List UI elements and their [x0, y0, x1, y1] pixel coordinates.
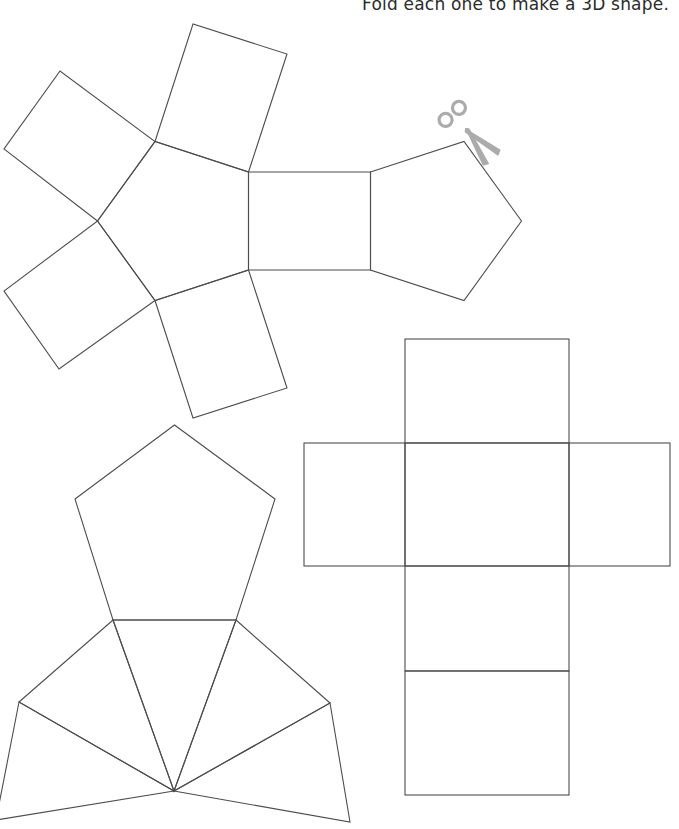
left-face	[304, 443, 405, 566]
worksheet-canvas	[0, 0, 679, 829]
right-face	[569, 443, 670, 566]
triangle-center	[113, 620, 236, 791]
pentagonal-pyramid-net	[0, 425, 350, 822]
bottom-square	[155, 270, 287, 418]
right-square	[249, 172, 371, 270]
center-pentagon	[98, 142, 249, 301]
right-pentagon	[371, 142, 522, 301]
scissors-icon	[436, 99, 505, 171]
triangle-far-right	[174, 703, 350, 822]
top-left-square	[4, 71, 155, 221]
bottom-face	[405, 671, 569, 795]
triangle-far-left	[0, 702, 174, 820]
top-face	[405, 339, 569, 443]
middle-face	[405, 443, 569, 566]
pentagonal-prism-net	[4, 24, 522, 418]
triangle-left	[19, 620, 174, 791]
worksheet-page: Fold each one to make a 3D shape.	[0, 0, 679, 829]
lower-face	[405, 566, 569, 671]
triangle-right	[174, 620, 330, 791]
bottom-left-square	[4, 221, 155, 369]
top-right-square	[155, 24, 287, 172]
base-pentagon	[75, 425, 275, 620]
cuboid-net	[304, 339, 670, 795]
